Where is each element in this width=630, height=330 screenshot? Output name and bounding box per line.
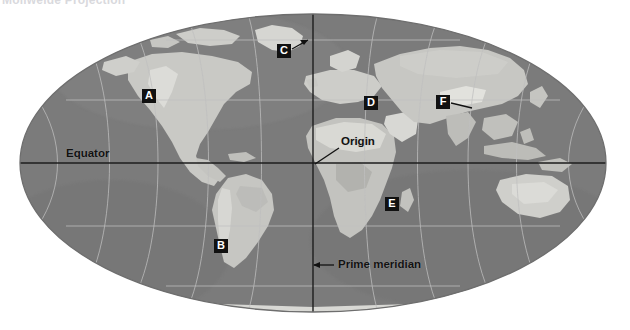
land-asia-east-limb	[560, 58, 598, 86]
prime-meridian-label: Prime meridian	[338, 258, 421, 270]
map-label-c[interactable]: C	[277, 44, 291, 58]
map-label-e-text: E	[386, 198, 398, 210]
map-figure: Mollweide Projection	[0, 0, 630, 330]
map-label-d-text: D	[365, 97, 377, 109]
map-label-f[interactable]: F	[436, 95, 450, 109]
equator-label: Equator	[66, 147, 109, 159]
map-label-b-text: B	[215, 240, 227, 252]
map-label-f-text: F	[437, 96, 449, 108]
map-label-c-text: C	[278, 45, 290, 57]
world-map: A B C D E F Equator Origin Prime meridia…	[0, 0, 630, 330]
map-canvas	[0, 0, 630, 330]
map-label-a-text: A	[143, 90, 155, 102]
map-label-d[interactable]: D	[364, 96, 378, 110]
origin-label: Origin	[341, 135, 375, 147]
map-label-b[interactable]: B	[214, 239, 228, 253]
map-label-a[interactable]: A	[142, 89, 156, 103]
map-label-e[interactable]: E	[385, 197, 399, 211]
